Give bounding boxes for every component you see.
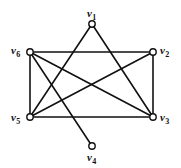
graph-figure: v1v2v3v4v5v6 xyxy=(0,0,181,168)
graph-drawing-canvas xyxy=(0,0,181,168)
vertex-label-v2: v2 xyxy=(160,45,169,56)
vertex-label-subscript-v5: 5 xyxy=(16,117,20,126)
vertex-label-v3: v3 xyxy=(160,112,169,123)
vertex-label-v5: v5 xyxy=(11,112,20,123)
vertex-label-v1: v1 xyxy=(87,8,96,19)
edge-layer xyxy=(30,27,153,143)
graph-vertex-v4 xyxy=(89,143,95,149)
vertex-label-subscript-v3: 3 xyxy=(165,117,169,126)
vertex-label-v6: v6 xyxy=(11,45,20,56)
graph-vertex-v3 xyxy=(150,114,156,120)
vertex-label-subscript-v6: 6 xyxy=(16,50,20,59)
graph-vertex-v2 xyxy=(150,49,156,55)
vertex-label-v4: v4 xyxy=(87,152,96,163)
vertex-label-subscript-v4: 4 xyxy=(92,157,96,166)
graph-vertex-v6 xyxy=(27,49,33,55)
vertex-label-subscript-v1: 1 xyxy=(92,13,96,22)
vertex-label-subscript-v2: 2 xyxy=(165,50,169,59)
graph-vertex-v5 xyxy=(27,114,33,120)
